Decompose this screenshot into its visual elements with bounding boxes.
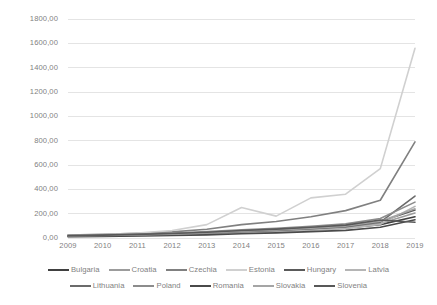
legend-item-czechia[interactable]: Czechia bbox=[166, 266, 217, 274]
x-axis-tick-label: 2011 bbox=[121, 242, 153, 250]
x-axis-tick-label: 2012 bbox=[156, 242, 188, 250]
legend-swatch-icon bbox=[284, 269, 305, 271]
legend-item-bulgaria[interactable]: Bulgaria bbox=[48, 266, 100, 274]
legend-swatch-icon bbox=[48, 269, 69, 271]
plot-area: 0,00200,00400,00600,00800,001000,001200,… bbox=[0, 0, 437, 258]
legend-swatch-icon bbox=[253, 285, 274, 287]
legend-item-label: Czechia bbox=[189, 266, 217, 274]
legend-swatch-icon bbox=[345, 269, 366, 271]
legend-item-label: Poland bbox=[156, 282, 180, 290]
legend-item-estonia[interactable]: Estonia bbox=[226, 266, 275, 274]
legend-item-label: Latvia bbox=[368, 266, 389, 274]
legend-item-lithuania[interactable]: Lithuania bbox=[70, 282, 125, 290]
legend-item-hungary[interactable]: Hungary bbox=[284, 266, 336, 274]
legend-item-label: Slovakia bbox=[276, 282, 305, 290]
series-line-estonia bbox=[68, 48, 415, 235]
x-axis-tick-label: 2010 bbox=[87, 242, 119, 250]
x-axis-tick-label: 2013 bbox=[191, 242, 223, 250]
legend-item-label: Estonia bbox=[249, 266, 275, 274]
legend-swatch-icon bbox=[109, 269, 130, 271]
legend-row: LithuaniaPolandRomaniaSlovakiaSlovenia bbox=[0, 278, 437, 294]
legend-swatch-icon bbox=[133, 285, 154, 287]
legend-item-label: Croatia bbox=[132, 266, 157, 274]
legend-item-slovenia[interactable]: Slovenia bbox=[314, 282, 367, 290]
legend-swatch-icon bbox=[314, 285, 335, 287]
legend-swatch-icon bbox=[190, 285, 211, 287]
y-axis-tick-label: 1800,00 bbox=[6, 15, 58, 23]
x-axis-tick-label: 2017 bbox=[330, 242, 362, 250]
chart-legend: BulgariaCroatiaCzechiaEstoniaHungaryLatv… bbox=[0, 259, 437, 305]
legend-swatch-icon bbox=[226, 269, 247, 271]
legend-swatch-icon bbox=[70, 285, 91, 287]
legend-item-label: Slovenia bbox=[337, 282, 367, 290]
y-axis-tick-label: 600,00 bbox=[6, 161, 58, 169]
legend-item-slovakia[interactable]: Slovakia bbox=[253, 282, 305, 290]
legend-item-label: Hungary bbox=[307, 266, 336, 274]
y-axis-tick-label: 1000,00 bbox=[6, 112, 58, 120]
y-axis-tick-label: 400,00 bbox=[6, 185, 58, 193]
y-axis-tick-label: 200,00 bbox=[6, 210, 58, 218]
legend-item-romania[interactable]: Romania bbox=[190, 282, 244, 290]
legend-item-latvia[interactable]: Latvia bbox=[345, 266, 389, 274]
legend-item-croatia[interactable]: Croatia bbox=[109, 266, 157, 274]
legend-item-label: Lithuania bbox=[93, 282, 125, 290]
y-axis-tick-label: 1400,00 bbox=[6, 64, 58, 72]
x-axis-labels: 2009201020112012201320142015201620172018… bbox=[0, 240, 437, 256]
x-axis-tick-label: 2015 bbox=[260, 242, 292, 250]
legend-item-poland[interactable]: Poland bbox=[133, 282, 180, 290]
x-axis-tick-label: 2018 bbox=[364, 242, 396, 250]
plot-svg bbox=[0, 0, 437, 258]
y-axis-tick-label: 1600,00 bbox=[6, 39, 58, 47]
y-axis-labels: 0,00200,00400,00600,00800,001000,001200,… bbox=[0, 0, 58, 258]
legend-swatch-icon bbox=[166, 269, 187, 271]
x-axis-tick-label: 2009 bbox=[52, 242, 84, 250]
legend-item-label: Romania bbox=[213, 282, 244, 290]
legend-row: BulgariaCroatiaCzechiaEstoniaHungaryLatv… bbox=[0, 262, 437, 278]
legend-item-label: Bulgaria bbox=[71, 266, 100, 274]
x-axis-tick-label: 2019 bbox=[399, 242, 431, 250]
y-axis-tick-label: 1200,00 bbox=[6, 88, 58, 96]
y-axis-tick-label: 800,00 bbox=[6, 137, 58, 145]
x-axis-tick-label: 2016 bbox=[295, 242, 327, 250]
x-axis-tick-label: 2014 bbox=[226, 242, 258, 250]
line-chart: 0,00200,00400,00600,00800,001000,001200,… bbox=[0, 0, 437, 305]
